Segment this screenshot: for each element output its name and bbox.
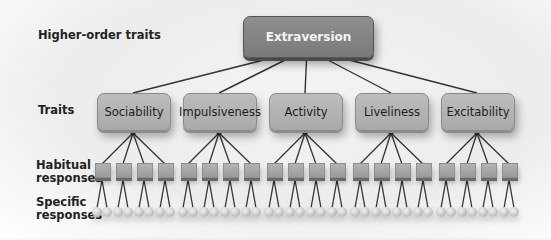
habitual-response bbox=[244, 163, 260, 178]
trait-impulsiveness: Impulsiveness bbox=[183, 93, 257, 131]
habitual-response bbox=[181, 163, 197, 178]
higher-order-trait-extraversion: Extraversion bbox=[243, 16, 374, 58]
habitual-response bbox=[374, 163, 390, 178]
specific-response bbox=[457, 207, 467, 217]
specific-response bbox=[337, 207, 347, 217]
specific-response bbox=[178, 207, 188, 217]
specific-response bbox=[92, 207, 102, 217]
label-habitual-responses: Habitual responses bbox=[36, 159, 102, 185]
specific-response bbox=[199, 207, 209, 217]
trait-liveliness: Liveliness bbox=[355, 93, 429, 131]
specific-response bbox=[381, 207, 391, 217]
specific-response bbox=[220, 207, 230, 217]
specific-response bbox=[251, 207, 261, 217]
habitual-response bbox=[330, 163, 346, 178]
specific-response bbox=[264, 207, 274, 217]
label-habitual-line2: responses bbox=[36, 172, 102, 185]
specific-response bbox=[402, 207, 412, 217]
specific-response bbox=[241, 207, 251, 217]
habitual-response bbox=[288, 163, 304, 178]
specific-response bbox=[436, 207, 446, 217]
specific-response bbox=[478, 207, 488, 217]
habitual-response bbox=[223, 163, 239, 178]
specific-response bbox=[360, 207, 370, 217]
specific-response bbox=[209, 207, 219, 217]
specific-response bbox=[295, 207, 305, 217]
specific-response bbox=[392, 207, 402, 217]
specific-response bbox=[113, 207, 123, 217]
specific-response bbox=[350, 207, 360, 217]
habitual-response bbox=[395, 163, 411, 178]
trait-sociability: Sociability bbox=[97, 93, 171, 131]
specific-response bbox=[499, 207, 509, 217]
specific-response bbox=[155, 207, 165, 217]
habitual-response bbox=[416, 163, 432, 178]
habitual-response bbox=[158, 163, 174, 178]
habitual-response bbox=[502, 163, 518, 178]
specific-response bbox=[316, 207, 326, 217]
habitual-response bbox=[95, 163, 111, 178]
specific-response bbox=[144, 207, 154, 217]
specific-response bbox=[467, 207, 477, 217]
specific-response bbox=[306, 207, 316, 217]
habitual-response bbox=[137, 163, 153, 178]
trait-excitability: Excitability bbox=[441, 93, 515, 131]
specific-response bbox=[230, 207, 240, 217]
specific-response bbox=[285, 207, 295, 217]
specific-response bbox=[165, 207, 175, 217]
specific-response bbox=[123, 207, 133, 217]
habitual-response bbox=[309, 163, 325, 178]
habitual-response bbox=[460, 163, 476, 178]
specific-response bbox=[134, 207, 144, 217]
specific-response bbox=[488, 207, 498, 217]
habitual-response bbox=[202, 163, 218, 178]
label-traits: Traits bbox=[38, 104, 74, 117]
habitual-response bbox=[116, 163, 132, 178]
label-higher-order-traits: Higher-order traits bbox=[38, 29, 161, 42]
specific-response bbox=[327, 207, 337, 217]
trait-activity: Activity bbox=[269, 93, 343, 131]
specific-response bbox=[509, 207, 519, 217]
specific-response bbox=[188, 207, 198, 217]
specific-response bbox=[274, 207, 284, 217]
habitual-response bbox=[439, 163, 455, 178]
specific-response bbox=[371, 207, 381, 217]
specific-response bbox=[423, 207, 433, 217]
habitual-response bbox=[267, 163, 283, 178]
habitual-response bbox=[481, 163, 497, 178]
specific-response bbox=[446, 207, 456, 217]
specific-response bbox=[413, 207, 423, 217]
extraversion-hierarchy-diagram: Higher-order traits Traits Habitual resp… bbox=[0, 0, 551, 238]
habitual-response bbox=[353, 163, 369, 178]
specific-response bbox=[102, 207, 112, 217]
